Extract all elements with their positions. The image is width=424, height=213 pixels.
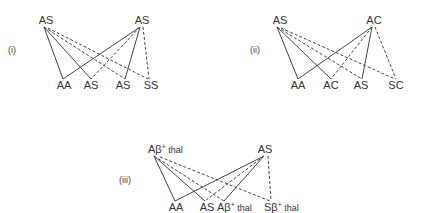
diagram-ii-child-2: AC (323, 80, 338, 91)
gene-suffix: thal (235, 203, 252, 213)
diagram-i-parent-1: AS (39, 15, 54, 26)
diagram-i-child-4: SS (144, 80, 159, 91)
diagram-ii-child-4: SC (388, 80, 403, 91)
inheritance-lines (0, 0, 424, 213)
diagram-iii-child-3: Aβ+ thal (217, 202, 252, 213)
diagram-i-child-3: AS (116, 80, 131, 91)
diagram-ii-child-3: AS (354, 80, 369, 91)
diagram-iii-child-2: AS (200, 202, 215, 213)
diagram-i-numeral: (i) (8, 45, 16, 55)
gene-base: Sβ (264, 201, 278, 213)
diagram-i-parent-2: AS (135, 15, 150, 26)
diagram-iii-parent-2: AS (258, 144, 273, 155)
diagram-iii-parent-1: Aβ+ thal (148, 144, 183, 156)
diagram-i-child-1: AA (57, 80, 72, 91)
diagram-ii-child-1: AA (291, 80, 306, 91)
diagram-ii-numeral: (ii) (250, 45, 260, 55)
diagram-ii-parent-2: AC (366, 15, 381, 26)
diagram-i-lines (44, 27, 149, 79)
diagram-iii-numeral: (iii) (119, 175, 131, 185)
diagram-iii-lines (154, 156, 271, 201)
gene-base: Aβ (148, 143, 162, 155)
gene-suffix: thal (166, 145, 183, 155)
diagram-iii-child-1: AA (169, 202, 184, 213)
gene-base: Aβ (217, 201, 231, 213)
diagram-iii-child-4: Sβ+ thal (264, 202, 299, 213)
diagram-i-child-2: AS (84, 80, 99, 91)
diagram-ii-parent-1: AS (273, 15, 288, 26)
diagram-ii-lines (277, 27, 396, 79)
gene-suffix: thal (282, 203, 299, 213)
